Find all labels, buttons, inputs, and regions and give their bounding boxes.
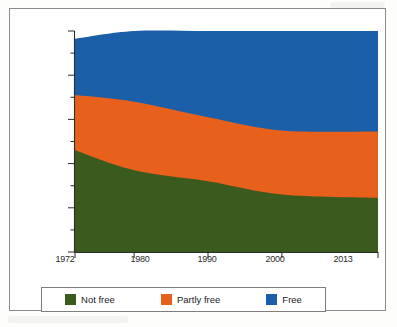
- legend-swatch-partly-free: [161, 294, 172, 305]
- page-background: 100% 80% 60% 40% 20% 0% 1972 1980 1990 2…: [0, 0, 397, 327]
- legend-label-not-free: Not free: [81, 294, 115, 305]
- legend-label-free: Free: [282, 294, 302, 305]
- chart-frame: 100% 80% 60% 40% 20% 0% 1972 1980 1990 2…: [9, 8, 386, 311]
- legend-label-partly-free: Partly free: [177, 294, 220, 305]
- area-series-group: [75, 30, 378, 252]
- plot-area: [65, 27, 379, 259]
- stacked-area-chart: [65, 27, 379, 259]
- legend-item-free[interactable]: Free: [266, 294, 302, 305]
- legend-swatch-free: [266, 294, 277, 305]
- legend-swatch-not-free: [65, 294, 76, 305]
- legend-item-not-free[interactable]: Not free: [65, 294, 115, 305]
- chart-legend: Not free Partly free Free: [41, 287, 326, 312]
- y-tick-marks: [68, 31, 75, 252]
- scan-smudge-bottom: [8, 316, 128, 323]
- legend-item-partly-free[interactable]: Partly free: [161, 294, 220, 305]
